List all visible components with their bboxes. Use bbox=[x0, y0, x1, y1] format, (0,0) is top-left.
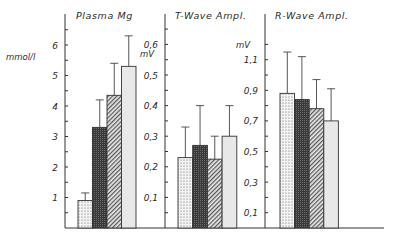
y-tick-label: 0,4 bbox=[144, 101, 159, 111]
bar bbox=[93, 127, 108, 228]
y-tick-label: 4 bbox=[52, 102, 58, 112]
y-tick-label: 1,1 bbox=[244, 55, 258, 65]
bar bbox=[78, 201, 93, 228]
panel-1: 123456Plasma Mgmmol/l bbox=[6, 10, 165, 228]
panel-3: 0,10,30,50,70,91,1R-Wave Ampl.mV bbox=[236, 10, 384, 228]
y-tick-label: 0,5 bbox=[244, 147, 259, 157]
bar bbox=[178, 158, 193, 228]
bar bbox=[280, 93, 295, 228]
y-tick-label: 6 bbox=[52, 41, 58, 51]
bar bbox=[324, 121, 339, 228]
y-tick-label: 0,7 bbox=[244, 116, 259, 126]
y-tick-label: 2 bbox=[52, 163, 58, 173]
y-tick-label: 0,9 bbox=[244, 86, 259, 96]
y-tick-label: 3 bbox=[52, 132, 58, 142]
y-tick-label: 0,3 bbox=[144, 132, 159, 142]
unit-label: mmol/l bbox=[6, 52, 36, 62]
unit-label: mV bbox=[236, 40, 251, 50]
y-tick-label: 0,1 bbox=[244, 208, 258, 218]
bar bbox=[122, 66, 137, 228]
y-tick-label: 5 bbox=[52, 71, 58, 81]
y-tick-label: 0,2 bbox=[144, 162, 159, 172]
bar bbox=[309, 109, 324, 228]
panel-title: T-Wave Ampl. bbox=[175, 10, 247, 21]
panel-title: Plasma Mg bbox=[76, 10, 133, 21]
bar bbox=[222, 136, 237, 228]
y-tick-label: 0,5 bbox=[144, 71, 159, 81]
y-tick-label: 0,3 bbox=[244, 178, 259, 188]
y-tick-label: 1 bbox=[52, 193, 58, 203]
bar bbox=[107, 95, 122, 228]
bar bbox=[295, 99, 310, 228]
panel-title: R-Wave Ampl. bbox=[275, 10, 349, 21]
unit-label: mV bbox=[140, 49, 155, 59]
bar bbox=[193, 145, 208, 228]
y-tick-label: 0,1 bbox=[144, 193, 158, 203]
figure: 123456Plasma Mgmmol/l0,10,20,30,40,50,6T… bbox=[0, 0, 404, 242]
bar bbox=[207, 159, 222, 228]
